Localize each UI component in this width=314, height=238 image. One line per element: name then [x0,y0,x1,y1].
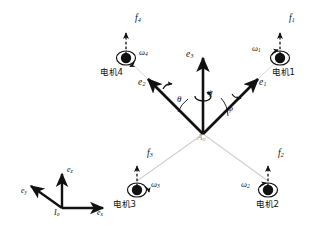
motor-4-force-label: f4 [135,14,141,24]
motor-1-omega-label: ω1 [252,44,261,54]
body-axis-e3-label: e3 [186,50,193,60]
roll-angle-label: φ [228,104,233,113]
arm-to-motor-2 [203,134,268,181]
quadrotor-frame-diagram: f4 ω4 电机4 f1 ω1 电机1 f3 ω3 电机3 f2 ω2 电机2 … [0,0,314,238]
inertial-axis-ey [31,186,62,208]
arm-vector-e1-label: e1 [259,78,266,88]
body-frame-origin-label: Ao [197,133,206,142]
motor-3-force-label: f3 [147,149,153,159]
inertial-axis-ez-label: ez [67,166,73,175]
motor-3-name: 电机3 [113,200,136,209]
motor-4-hub [121,53,131,63]
pitch-rotation-arc [163,84,172,89]
yaw-angle-label: ψ [207,88,213,97]
inertial-axis-ex-label: ex [97,209,103,218]
motor-4-omega-label: ω4 [139,48,148,58]
motor-3-omega-label: ω3 [151,180,160,190]
motor-1-name: 电机1 [272,68,295,77]
inertial-axis-ey-label: ey [21,187,27,196]
motor-2-hub [263,185,273,195]
arm-vector-e2-label: e2 [138,78,145,88]
inertial-frame-origin-label: Io [54,209,59,218]
pitch-angle-label: θ [177,95,181,104]
motor-3-hub [132,185,142,195]
motor-1-hub [275,53,285,63]
arm-vector-e2 [148,79,203,134]
motor-2-omega-label: ω2 [241,180,250,190]
motor-4-name: 电机4 [100,68,123,77]
motor-2-name: 电机2 [256,200,279,209]
motor-2-force-label: f2 [278,149,284,159]
motor-1-force-label: f1 [289,14,295,24]
